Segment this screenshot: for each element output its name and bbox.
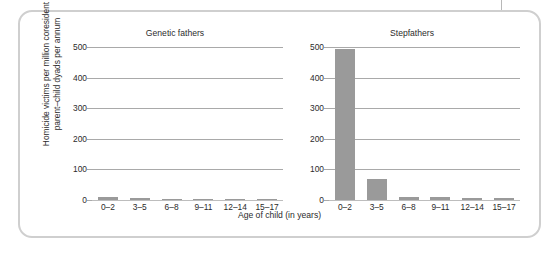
y-axis-tick-mark (87, 200, 92, 201)
gridline (329, 200, 520, 201)
bar (399, 197, 419, 200)
x-axis-title: Age of child (in years) (20, 210, 539, 220)
y-axis-tick-label: 500 (310, 42, 324, 52)
plot-area-stepfathers: 0100200300400500 0–23–56–89–1112–1415–17 (329, 47, 520, 200)
y-axis-tick-label: 0 (82, 195, 87, 205)
y-axis-tick-mark (324, 200, 329, 201)
y-axis-tick-label: 100 (310, 164, 324, 174)
bar-group-genetic-fathers (92, 47, 283, 200)
y-axis-tick-label: 500 (73, 42, 87, 52)
bar-slot (329, 47, 361, 200)
bar-group-stepfathers (329, 47, 520, 200)
bar-slot (456, 47, 488, 200)
bar (130, 198, 150, 200)
y-axis-tick-label: 200 (310, 134, 324, 144)
bar (430, 197, 450, 200)
y-axis-tick-label: 400 (73, 73, 87, 83)
bar (494, 198, 514, 200)
bar-slot (488, 47, 520, 200)
y-axis-tick-label: 300 (73, 103, 87, 113)
bar (225, 199, 245, 200)
chart-panel-genetic-fathers: Genetic fathers 0100200300400500 0–23–56… (60, 28, 290, 218)
chart-panel-stepfathers: Stepfathers 0100200300400500 0–23–56–89–… (297, 28, 527, 218)
y-axis-tick-label: 0 (319, 195, 324, 205)
y-axis-tick-label: 300 (310, 103, 324, 113)
bar-slot (92, 47, 124, 200)
chart-title-genetic-fathers: Genetic fathers (60, 28, 290, 38)
bar-slot (393, 47, 425, 200)
bar (367, 179, 387, 200)
bar (257, 199, 277, 200)
y-axis-tick-label: 200 (73, 134, 87, 144)
bar-slot (361, 47, 393, 200)
bar (193, 199, 213, 200)
bar-slot (219, 47, 251, 200)
bar (335, 49, 355, 200)
gridline (92, 200, 283, 201)
bar-slot (251, 47, 283, 200)
bar (462, 198, 482, 200)
bar-slot (124, 47, 156, 200)
bar-slot (187, 47, 219, 200)
bar-slot (424, 47, 456, 200)
y-axis-tick-label: 100 (73, 164, 87, 174)
bar-slot (156, 47, 188, 200)
plot-area-genetic-fathers: 0100200300400500 0–23–56–89–1112–1415–17 (92, 47, 283, 200)
bar (162, 199, 182, 200)
figure-container: Homicide victims per million coresident … (18, 10, 541, 238)
bar (98, 197, 118, 200)
y-axis-tick-label: 400 (310, 73, 324, 83)
chart-title-stepfathers: Stepfathers (297, 28, 527, 38)
